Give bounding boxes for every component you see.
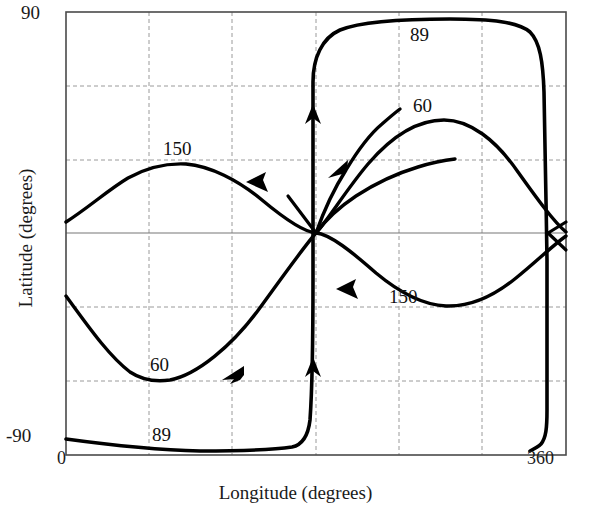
curve-label-150-lower: 150 <box>389 286 418 308</box>
y-axis-min-tick-label: -90 <box>6 425 31 447</box>
x-axis-min-tick-label: 0 <box>57 448 66 469</box>
latitude-longitude-ground-track-chart <box>0 0 591 525</box>
y-axis-max-tick-label: 90 <box>21 2 40 24</box>
curve-label-89-lower: 89 <box>152 424 171 446</box>
curve-label-60-upper: 60 <box>413 95 432 117</box>
curve-label-150-upper: 150 <box>163 138 192 160</box>
x-axis-title: Longitude (degrees) <box>0 482 591 504</box>
x-axis-max-tick-label: 360 <box>527 448 554 469</box>
curve-label-60-lower: 60 <box>150 354 169 376</box>
curve-label-89-upper: 89 <box>410 24 429 46</box>
y-axis-title: Latitude (degrees) <box>15 128 37 348</box>
